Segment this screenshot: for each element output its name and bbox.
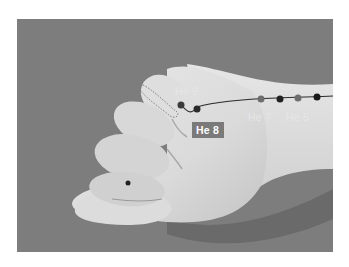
- point-he6-dot: [277, 96, 284, 103]
- point-he4-dot: [314, 94, 321, 101]
- point-he9-dot: [178, 102, 185, 109]
- point-he7-dot: [258, 96, 265, 103]
- label-he8: He 8: [192, 122, 224, 138]
- label-he9: He 9: [175, 86, 198, 97]
- label-he7: He 7: [248, 112, 271, 123]
- hand-illustration: [17, 19, 333, 252]
- point-he5-dot: [295, 95, 302, 102]
- label-he5: He 5: [286, 112, 309, 123]
- point-he8-dot: [194, 106, 201, 113]
- photo-fist-acupoints: He 9 He 8 He 7 He 5: [17, 19, 333, 252]
